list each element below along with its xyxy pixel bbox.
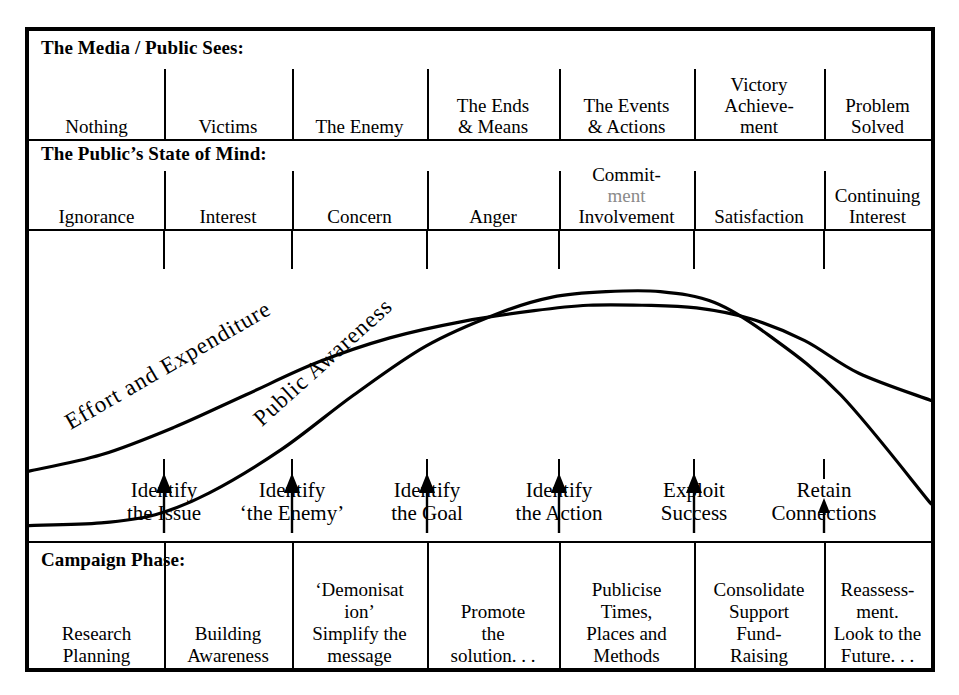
- mind-col-divider-3: [427, 171, 429, 229]
- mind-cell-7-line-1: Continuing: [824, 185, 931, 206]
- milestone-label-3: Identifythe Goal: [391, 479, 463, 525]
- milestone-label-4-line-2: the Action: [516, 502, 603, 525]
- diagram-canvas: The Media / Public Sees: NothingVictimsT…: [0, 0, 959, 695]
- mind-cell-2: Interest: [164, 167, 292, 227]
- phase-cell-2: BuildingAwareness: [164, 583, 292, 667]
- phase-cell-4: Promotethesolution. . .: [427, 549, 559, 667]
- mind-cell-6: Satisfaction: [694, 167, 824, 227]
- mind-cell-3-line-1: Concern: [292, 206, 427, 227]
- milestone-label-5-line-1: Exploit: [661, 479, 728, 502]
- media-cell-1-line-1: Nothing: [29, 116, 164, 137]
- mind-cell-5-line-2: ment: [559, 185, 694, 206]
- phase-cell-6-line-2: Support: [694, 601, 824, 623]
- milestone-label-5-line-2: Success: [661, 502, 728, 525]
- mind-cell-7-line-2: Interest: [824, 206, 931, 227]
- media-col-divider-5: [694, 69, 696, 139]
- phase-cell-7-line-4: Future. . .: [824, 645, 931, 667]
- mind-cell-7: ContinuingInterest: [824, 167, 931, 227]
- mind-col-divider-6: [824, 171, 826, 229]
- media-cell-4-line-1: The Ends: [427, 95, 559, 116]
- phase-cell-4-line-2: the: [427, 623, 559, 645]
- phase-cell-7-line-3: Look to the: [824, 623, 931, 645]
- media-cell-2: Victims: [164, 69, 292, 137]
- mind-cell-1-line-1: Ignorance: [29, 206, 164, 227]
- mind-cell-4-line-1: Anger: [427, 206, 559, 227]
- milestone-label-1-line-2: the Issue: [127, 502, 201, 525]
- phase-col-divider-5: [694, 543, 696, 672]
- milestone-label-2: Identify‘the Enemy’: [240, 479, 344, 525]
- media-sees-title: The Media / Public Sees:: [41, 37, 244, 59]
- phase-cell-5-line-3: Places and: [559, 623, 694, 645]
- milestone-label-6-line-2: Connections: [772, 502, 877, 525]
- media-cell-6-line-1: Victory: [694, 74, 824, 95]
- curves-area: Identifythe IssueIdentify‘the Enemy’Iden…: [29, 231, 931, 541]
- media-cell-7-line-1: Problem: [824, 95, 931, 116]
- phase-cell-6: ConsolidateSupportFund-Raising: [694, 549, 824, 667]
- phase-cell-1-line-2: Planning: [29, 645, 164, 667]
- media-cell-6-line-3: ment: [694, 116, 824, 137]
- mind-col-divider-4: [559, 171, 561, 229]
- media-cell-4-line-2: & Means: [427, 116, 559, 137]
- phase-cell-7: Reassess-ment.Look to theFuture. . .: [824, 549, 931, 667]
- media-col-divider-2: [292, 69, 294, 139]
- phase-cell-5-line-2: Times,: [559, 601, 694, 623]
- mind-cell-6-line-1: Satisfaction: [694, 206, 824, 227]
- phase-col-divider-2: [292, 543, 294, 672]
- phase-cell-7-line-1: Reassess-: [824, 579, 931, 601]
- phase-cell-3-line-2: ion’: [292, 601, 427, 623]
- media-col-divider-3: [427, 69, 429, 139]
- milestone-label-4: Identifythe Action: [516, 479, 603, 525]
- phase-col-divider-3: [427, 543, 429, 672]
- milestone-label-3-line-2: the Goal: [391, 502, 463, 525]
- phase-cell-2-line-1: Building: [164, 623, 292, 645]
- phase-cell-6-line-3: Fund-: [694, 623, 824, 645]
- media-cell-1: Nothing: [29, 69, 164, 137]
- milestone-label-5: ExploitSuccess: [661, 479, 728, 525]
- mind-cell-2-line-1: Interest: [164, 206, 292, 227]
- phase-cell-3-line-3: Simplify the: [292, 623, 427, 645]
- phase-col-divider-4: [559, 543, 561, 672]
- mind-col-divider-2: [292, 171, 294, 229]
- media-col-divider-1: [164, 69, 166, 139]
- mind-cell-3: Concern: [292, 167, 427, 227]
- media-cell-5: The Events& Actions: [559, 69, 694, 137]
- phase-cell-3: ‘Demonisation’Simplify themessage: [292, 549, 427, 667]
- milestone-label-1: Identifythe Issue: [127, 479, 201, 525]
- media-cell-4: The Ends& Means: [427, 69, 559, 137]
- phase-cell-7-line-2: ment.: [824, 601, 931, 623]
- mind-cell-1: Ignorance: [29, 167, 164, 227]
- state-of-mind-title: The Public’s State of Mind:: [41, 143, 267, 165]
- milestone-label-2-line-1: Identify: [240, 479, 344, 502]
- mind-cell-5-line-3: Involvement: [559, 206, 694, 227]
- phase-cell-5: PubliciseTimes,Places andMethods: [559, 549, 694, 667]
- milestone-label-1-line-1: Identify: [127, 479, 201, 502]
- diagram-frame: The Media / Public Sees: NothingVictimsT…: [25, 27, 935, 672]
- media-cell-3-line-1: The Enemy: [292, 116, 427, 137]
- mind-cell-4: Anger: [427, 167, 559, 227]
- phase-cell-5-line-1: Publicise: [559, 579, 694, 601]
- media-cell-2-line-1: Victims: [164, 116, 292, 137]
- mind-col-divider-1: [164, 171, 166, 229]
- mind-cell-5: Commit-mentInvolvement: [559, 167, 694, 227]
- phase-col-divider-1: [164, 543, 166, 672]
- milestone-label-6-line-1: Retain: [772, 479, 877, 502]
- phase-cell-6-line-1: Consolidate: [694, 579, 824, 601]
- media-cell-3: The Enemy: [292, 69, 427, 137]
- phase-cell-4-line-3: solution. . .: [427, 645, 559, 667]
- milestone-label-4-line-1: Identify: [516, 479, 603, 502]
- phase-cell-2-line-2: Awareness: [164, 645, 292, 667]
- phase-cell-5-line-4: Methods: [559, 645, 694, 667]
- mind-col-divider-5: [694, 171, 696, 229]
- curve-effort-and-expenditure: [29, 305, 931, 471]
- milestone-label-3-line-1: Identify: [391, 479, 463, 502]
- phase-cell-6-line-4: Raising: [694, 645, 824, 667]
- media-cell-6-line-2: Achieve-: [694, 95, 824, 116]
- media-col-divider-4: [559, 69, 561, 139]
- media-cell-6: VictoryAchieve-ment: [694, 69, 824, 137]
- phase-cell-3-line-4: message: [292, 645, 427, 667]
- mind-cell-5-line-1: Commit-: [559, 164, 694, 185]
- milestone-label-2-line-2: ‘the Enemy’: [240, 502, 344, 525]
- phase-cell-4-line-1: Promote: [427, 601, 559, 623]
- phase-cell-1-line-1: Research: [29, 623, 164, 645]
- media-cell-7: ProblemSolved: [824, 69, 931, 137]
